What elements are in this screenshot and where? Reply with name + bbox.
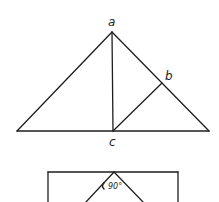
segment-cb — [113, 83, 162, 131]
angle-arc-icon — [103, 183, 105, 189]
angle-label: 90° — [108, 182, 122, 191]
right-side — [112, 32, 209, 131]
label-a: a — [108, 15, 115, 29]
left-side — [17, 32, 112, 131]
label-c: c — [109, 135, 116, 149]
label-b: b — [165, 69, 173, 83]
altitude-ac — [112, 32, 113, 131]
diagram: a b c 90° — [0, 0, 219, 202]
